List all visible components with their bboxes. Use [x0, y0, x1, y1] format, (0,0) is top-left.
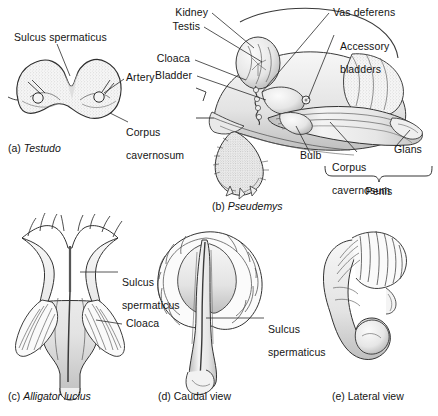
panel-e-artwork [323, 231, 406, 360]
caption-panel-d: (d) Caudal view [158, 390, 231, 402]
label-b-accessory-line2: bladders [340, 63, 381, 75]
label-b-corpus-line1: Corpus [332, 161, 366, 173]
caption-b-name: Pseudemys [228, 200, 283, 212]
label-a-sulcus-spermaticus: Sulcus spermaticus [14, 32, 107, 44]
panel-d-artwork [158, 232, 264, 395]
caption-e-name: Lateral view [348, 390, 404, 402]
label-d-sulcus-line2: spermaticus [268, 346, 326, 358]
caption-panel-e: (e) Lateral view [332, 390, 404, 402]
caption-b-tag: (b) [212, 200, 225, 212]
label-a-corpus-line1: Corpus [126, 126, 160, 138]
label-b-kidney: Kidney [120, 7, 208, 19]
caption-d-name: Caudal view [174, 390, 231, 402]
label-c-sulcus-line1: Sulcus [122, 276, 154, 288]
caption-e-tag: (e) [332, 390, 345, 402]
caption-c-name: Alligator lucius [23, 390, 91, 402]
caption-c-tag: (c) [8, 390, 20, 402]
caption-panel-b: (b) Pseudemys [212, 200, 283, 212]
label-b-glans: Glans [394, 144, 422, 156]
label-b-vas-deferens: Vas deferens [333, 7, 395, 19]
caption-panel-c: (c) Alligator lucius [8, 390, 91, 402]
label-c-cloaca: Cloaca [126, 318, 159, 330]
label-b-bladder: Bladder [108, 70, 192, 82]
label-a-corpus-cavernosum: Corpus cavernosum [126, 115, 184, 161]
caption-a-tag: (a) [8, 142, 21, 154]
label-a-corpus-line2: cavernosum [126, 149, 184, 161]
panel-c-artwork [15, 213, 124, 400]
label-b-accessory-line1: Accessory [340, 40, 389, 52]
label-b-bulb: Bulb [300, 150, 321, 162]
label-b-testis: Testis [120, 21, 200, 33]
label-b-cloaca: Cloaca [110, 53, 190, 65]
label-d-sulcus-spermaticus: Sulcus spermaticus [268, 312, 326, 358]
label-d-sulcus-line1: Sulcus [268, 323, 300, 335]
caption-a-name: Testudo [24, 142, 61, 154]
caption-d-tag: (d) [158, 390, 171, 402]
label-b-accessory-bladders: Accessory bladders [340, 29, 389, 75]
label-b-penis: Penis [343, 186, 415, 198]
label-c-sulcus-line2: spermaticus [122, 299, 180, 311]
anatomical-figure: Sulcus spermaticus Artery Corpus caverno… [0, 0, 438, 416]
panel-b-artwork [195, 8, 432, 199]
caption-panel-a: (a) Testudo [8, 142, 61, 154]
label-c-sulcus-spermaticus: Sulcus spermaticus [122, 265, 180, 311]
